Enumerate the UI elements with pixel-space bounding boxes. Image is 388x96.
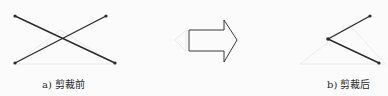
before-caption: a) 剪裁前 bbox=[42, 76, 85, 91]
endpoint-dot bbox=[326, 37, 330, 41]
faint-guide-triangle-left bbox=[15, 30, 115, 64]
endpoint-dot bbox=[113, 61, 116, 64]
line-segment bbox=[328, 39, 379, 63]
endpoint-dot bbox=[104, 14, 107, 17]
right-arrow-icon bbox=[189, 20, 237, 62]
clipping-diagram: a) 剪裁前 b) 剪裁后 bbox=[0, 0, 388, 96]
endpoint-dot bbox=[13, 61, 16, 64]
after-caption: b) 剪裁后 bbox=[327, 76, 370, 91]
after-lines bbox=[326, 14, 380, 64]
faint-guide-arrow-ghost bbox=[175, 30, 186, 51]
endpoint-dot bbox=[368, 14, 371, 17]
line-segment bbox=[328, 16, 370, 39]
endpoint-dot bbox=[13, 14, 16, 17]
before-lines bbox=[13, 14, 116, 64]
endpoint-dot bbox=[377, 61, 380, 64]
